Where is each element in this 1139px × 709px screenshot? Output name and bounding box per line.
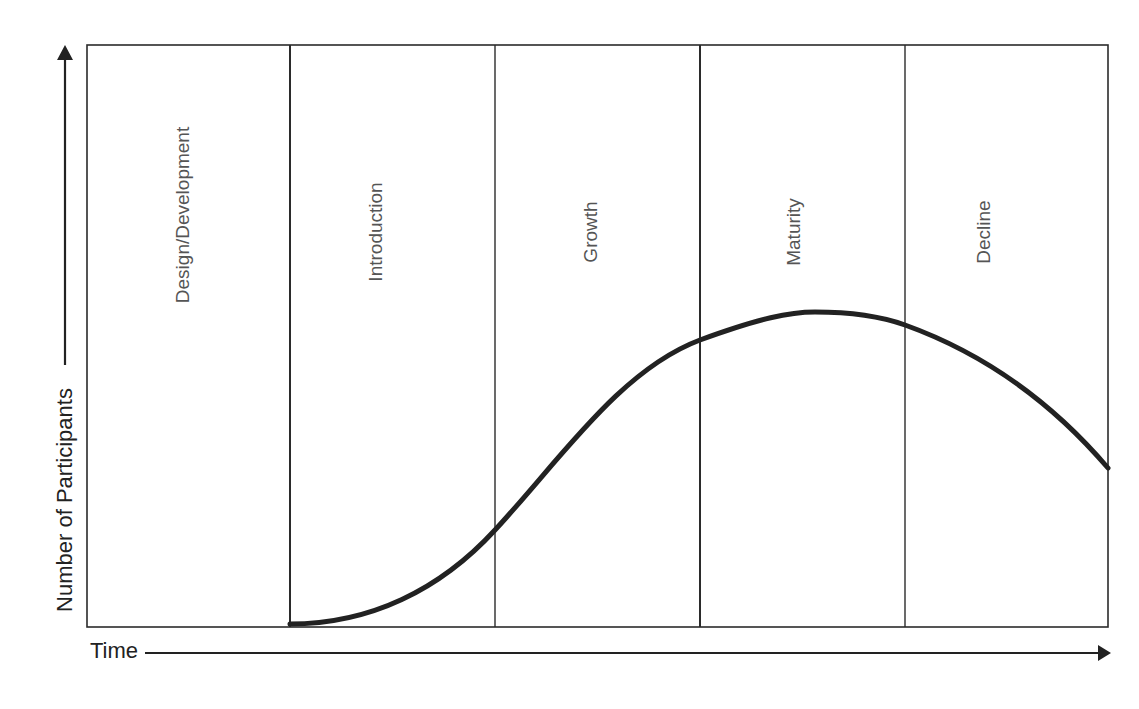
x-axis-label: Time: [90, 638, 138, 663]
product-life-cycle-diagram: Design/Development Introduction Growth M…: [0, 0, 1139, 709]
y-axis-arrowhead-icon: [57, 45, 73, 60]
diagram-frame: [87, 45, 1108, 627]
x-axis-arrowhead-icon: [1098, 645, 1111, 661]
stage-label-decline: Decline: [973, 200, 994, 263]
y-axis-label: Number of Participants: [52, 388, 77, 612]
stage-label-maturity: Maturity: [783, 198, 804, 266]
stage-label-growth: Growth: [580, 201, 601, 262]
stage-label-introduction: Introduction: [365, 182, 386, 281]
stage-label-design-development: Design/Development: [172, 126, 193, 303]
